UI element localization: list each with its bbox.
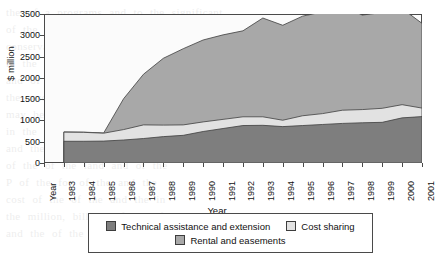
chart-legend: Technical assistance and extension Cost …: [88, 213, 373, 253]
x-axis-tick-label: 1987: [147, 181, 157, 201]
plot-area: [44, 14, 422, 163]
legend-row-top: Technical assistance and extension Cost …: [106, 221, 354, 232]
x-axis-tick-label: 2000: [406, 181, 416, 201]
y-axis-tick-label: 500: [2, 138, 40, 147]
legend-label: Cost sharing: [301, 221, 354, 232]
x-axis-tick-label: Year: [48, 183, 58, 201]
x-axis-tick-label: 1996: [326, 181, 336, 201]
x-axis-tick-label: 1992: [246, 181, 256, 201]
x-axis-tick-label: 2001: [426, 181, 436, 201]
x-axis-tick-label: 1989: [187, 181, 197, 201]
x-axis-tick-label: 1995: [306, 181, 316, 201]
legend-label: Rental and easements: [190, 235, 285, 246]
x-axis-tick-label: 1986: [127, 181, 137, 201]
x-axis-tick-label: 1985: [107, 181, 117, 201]
x-axis-tick-label: 1999: [386, 181, 396, 201]
legend-item-rental-and-easements[interactable]: Rental and easements: [175, 235, 285, 246]
x-axis-tick-label: 1998: [366, 181, 376, 201]
legend-item-technical-assistance[interactable]: Technical assistance and extension: [106, 221, 270, 232]
x-axis-labels: Year198319841985198619871988198919901991…: [0, 167, 434, 207]
legend-swatch-icon: [286, 221, 296, 231]
x-axis-tick-label: 1990: [207, 181, 217, 201]
x-axis-tick-label: 1993: [266, 181, 276, 201]
x-axis-tick-label: 1988: [167, 181, 177, 201]
legend-swatch-icon: [175, 235, 185, 245]
legend-swatch-icon: [106, 221, 116, 231]
x-axis-tick-label: 1991: [227, 181, 237, 201]
x-axis-tick-label: 1984: [87, 181, 97, 201]
x-axis-tick-label: 1983: [67, 181, 77, 201]
legend-label: Technical assistance and extension: [121, 221, 270, 232]
legend-row-bottom: Rental and easements: [175, 235, 285, 246]
y-axis-tick-label: 3500: [2, 10, 40, 19]
stacked-area-series: [44, 14, 422, 163]
y-axis-tick-label: 1000: [2, 116, 40, 125]
x-axis-tick-label: 1997: [346, 181, 356, 201]
y-axis-title: $ million: [5, 28, 16, 100]
legend-item-cost-sharing[interactable]: Cost sharing: [286, 221, 354, 232]
x-axis-tick-label: 1994: [286, 181, 296, 201]
